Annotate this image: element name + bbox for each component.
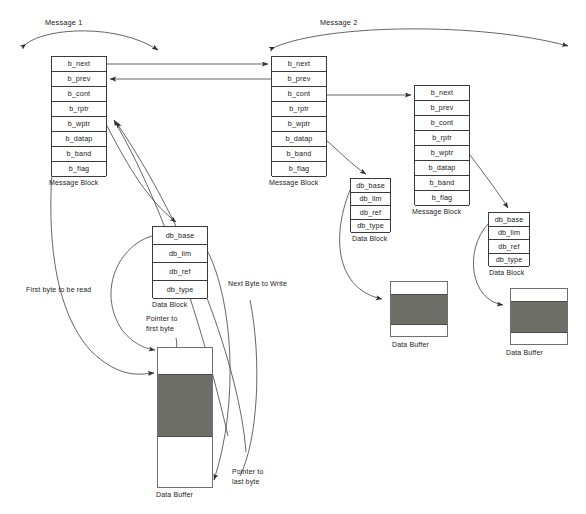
field-b_band: b_band	[415, 176, 469, 191]
cropped-header-text	[60, 0, 220, 2]
field-b_wptr: b_wptr	[415, 146, 469, 161]
field-db_lim: db_lim	[351, 193, 390, 207]
data-buffer-1	[157, 347, 213, 488]
field-b_prev: b_prev	[52, 72, 106, 87]
annotation-first-byte-to-be-read: First byte to be read	[26, 285, 91, 295]
data-buffer-1-caption: Data Buffer	[156, 491, 193, 498]
field-b_rptr: b_rptr	[415, 131, 469, 146]
data-block-3-caption: Data Block	[489, 269, 524, 276]
field-b_datap: b_datap	[415, 161, 469, 176]
message-1-title: Message 1	[45, 18, 83, 27]
message-block-1: b_next b_prev b_cont b_rptr b_wptr b_dat…	[51, 56, 107, 176]
field-db_base: db_base	[489, 213, 529, 227]
field-db_type: db_type	[351, 220, 390, 234]
field-b_cont: b_cont	[52, 87, 106, 102]
field-b_next: b_next	[415, 86, 469, 101]
field-b_prev: b_prev	[272, 72, 326, 87]
message-block-3-caption: Message Block	[412, 208, 461, 215]
field-db_ref: db_ref	[489, 240, 529, 254]
field-b_next: b_next	[52, 57, 106, 72]
link-mb2-bdatap-to-db2	[326, 140, 366, 174]
field-b_datap: b_datap	[272, 132, 326, 147]
data-buffer-1-used-region	[158, 374, 212, 437]
field-b_cont: b_cont	[415, 116, 469, 131]
field-db_lim: db_lim	[489, 227, 529, 241]
field-b_cont: b_cont	[272, 87, 326, 102]
link-mb1-bdatap-to-db1	[106, 124, 176, 222]
message-block-2: b_next b_prev b_cont b_rptr b_wptr b_dat…	[271, 56, 327, 176]
data-buffer-3-used-region	[511, 301, 567, 333]
pointer-to-last-byte-line-1: Pointer to	[232, 467, 263, 477]
field-db_type: db_type	[153, 281, 207, 299]
annotation-pointer-to-last-byte: Pointer to last byte	[232, 467, 263, 486]
cropped-header-text-2	[330, 0, 490, 2]
annotation-pointer-to-first-byte: Pointer to first byte	[146, 314, 177, 333]
data-block-2-caption: Data Block	[352, 235, 387, 242]
data-block-3: db_base db_lim db_ref db_type	[488, 212, 530, 266]
data-block-1-caption: Data Block	[152, 301, 187, 308]
data-block-2: db_base db_lim db_ref db_type	[350, 178, 391, 232]
message-block-1-caption: Message Block	[49, 179, 98, 186]
field-db_ref: db_ref	[351, 206, 390, 220]
field-b_band: b_band	[272, 147, 326, 162]
field-b_band: b_band	[52, 147, 106, 162]
pointer-to-first-byte-line-2: first byte	[146, 324, 177, 334]
annotation-next-byte-to-write: Next Byte to Write	[228, 279, 287, 289]
data-buffer-2	[390, 281, 448, 337]
field-b_wptr: b_wptr	[52, 117, 106, 132]
field-b_next: b_next	[272, 57, 326, 72]
data-buffer-3	[510, 288, 568, 345]
message-1-span-arc	[26, 31, 158, 50]
data-buffer-3-caption: Data Buffer	[506, 349, 543, 356]
field-db_ref: db_ref	[153, 263, 207, 281]
field-b_rptr: b_rptr	[272, 102, 326, 117]
pointer-to-last-byte-line-2: last byte	[232, 477, 263, 487]
data-buffer-2-caption: Data Buffer	[392, 341, 429, 348]
field-b_wptr: b_wptr	[272, 117, 326, 132]
message-2-title: Message 2	[320, 18, 358, 27]
message-block-2-caption: Message Block	[269, 179, 318, 186]
pointer-to-first-byte-line-1: Pointer to	[146, 314, 177, 324]
field-db_lim: db_lim	[153, 245, 207, 263]
field-db_base: db_base	[351, 179, 390, 193]
link-mb3-bdatap-to-db3	[470, 155, 508, 208]
field-b_datap: b_datap	[52, 132, 106, 147]
diagram-canvas: Message 1 Message 2 b_next b_prev b_cont…	[0, 0, 586, 514]
message-2-span-arc	[275, 29, 568, 47]
field-b_flag: b_flag	[272, 162, 326, 177]
field-b_rptr: b_rptr	[52, 102, 106, 117]
field-b_flag: b_flag	[52, 162, 106, 177]
data-buffer-2-used-region	[391, 294, 447, 325]
field-db_type: db_type	[489, 254, 529, 268]
leader-pointer-last-byte	[240, 300, 257, 476]
field-b_flag: b_flag	[415, 191, 469, 206]
field-db_base: db_base	[153, 227, 207, 245]
field-b_prev: b_prev	[415, 101, 469, 116]
message-block-3: b_next b_prev b_cont b_rptr b_wptr b_dat…	[414, 85, 470, 205]
data-block-1: db_base db_lim db_ref db_type	[152, 226, 208, 298]
